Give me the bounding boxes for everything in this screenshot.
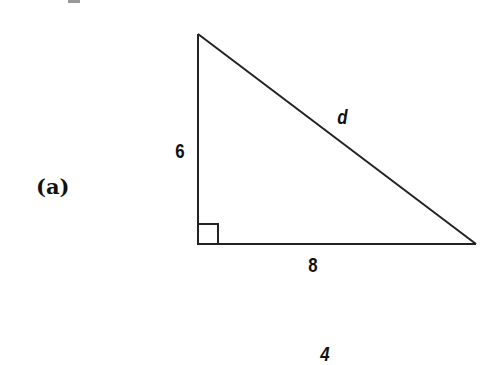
horizontal-leg-label: 8: [308, 254, 317, 275]
cropped-text-fragment: [68, 0, 80, 3]
next-figure-label: 4: [320, 343, 329, 364]
hypotenuse-label: d: [337, 106, 347, 127]
right-angle-marker: [198, 224, 218, 244]
vertical-leg-label: 6: [175, 140, 184, 161]
part-label: (a): [36, 176, 69, 197]
hypotenuse-line: [198, 34, 476, 244]
